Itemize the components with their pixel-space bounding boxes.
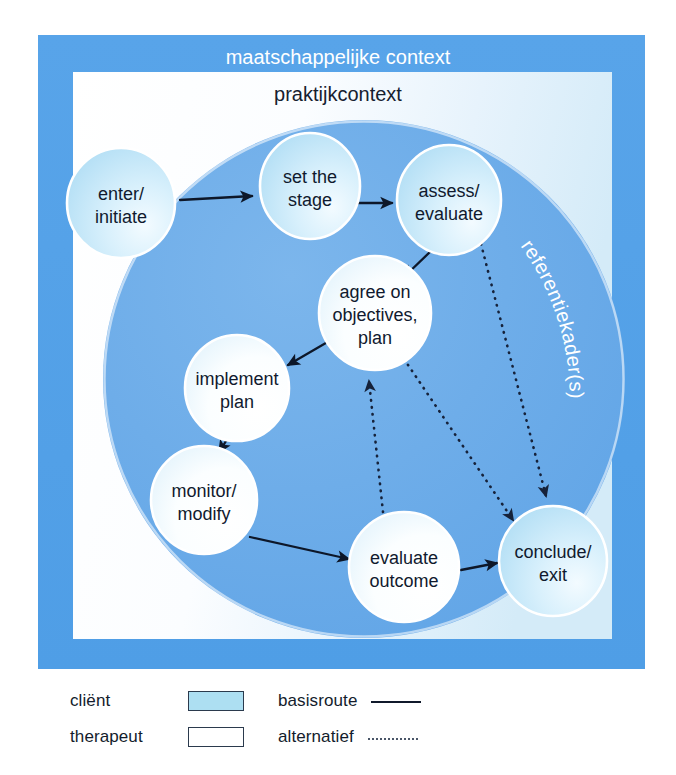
node-assess-evaluate-label-1: assess/ — [418, 181, 479, 201]
legend: cliënt basisroute therapeut alternatief — [70, 686, 590, 756]
legend-label-client: cliënt — [70, 691, 188, 711]
diagram-svg: maatschappelijke context praktijkcontext… — [0, 0, 676, 775]
maatschappelijke-context-label: maatschappelijke context — [226, 46, 451, 68]
legend-line-solid — [371, 701, 421, 703]
node-enter-initiate-label-2: initiate — [95, 207, 147, 227]
node-conclude-exit-label-2: exit — [539, 565, 567, 585]
node-assess-evaluate-label-2: evaluate — [415, 204, 483, 224]
node-monitor-modify-label-1: monitor/ — [171, 481, 236, 501]
node-implement-plan-label-1: implement — [195, 369, 278, 389]
node-set-the-stage-label-1: set the — [283, 167, 337, 187]
legend-swatch-client — [188, 691, 244, 711]
node-implement-plan-label-2: plan — [220, 392, 254, 412]
legend-label-therapist: therapeut — [70, 727, 188, 747]
node-enter-initiate-label-1: enter/ — [98, 184, 144, 204]
node-agree-on-objectives-plan-label-3: plan — [358, 328, 392, 348]
diagram-canvas: maatschappelijke context praktijkcontext… — [0, 0, 676, 775]
legend-row-client: cliënt basisroute — [70, 686, 421, 716]
node-agree-on-objectives-plan[interactable]: agree on objectives, plan — [319, 256, 431, 370]
node-monitor-modify[interactable]: monitor/ modify — [151, 446, 257, 554]
legend-swatch-therapist — [188, 727, 244, 747]
legend-label-basisroute: basisroute — [278, 691, 357, 711]
node-monitor-modify-label-2: modify — [177, 504, 230, 524]
node-enter-initiate[interactable]: enter/ initiate — [67, 148, 175, 258]
legend-row-therapist: therapeut alternatief — [70, 722, 418, 752]
legend-line-dotted — [368, 738, 418, 740]
node-implement-plan[interactable]: implement plan — [185, 335, 289, 441]
node-evaluate-outcome-label-2: outcome — [369, 571, 438, 591]
node-assess-evaluate[interactable]: assess/ evaluate — [397, 145, 501, 255]
node-agree-on-objectives-plan-label-1: agree on — [339, 282, 410, 302]
node-conclude-exit-label-1: conclude/ — [514, 542, 591, 562]
node-agree-on-objectives-plan-label-2: objectives, — [332, 305, 417, 325]
node-evaluate-outcome[interactable]: evaluate outcome — [349, 512, 459, 622]
node-conclude-exit[interactable]: conclude/ exit — [499, 506, 607, 616]
node-set-the-stage-label-2: stage — [288, 190, 332, 210]
legend-label-alternatief: alternatief — [278, 727, 354, 747]
node-set-the-stage[interactable]: set the stage — [260, 133, 360, 239]
praktijkcontext-label: praktijkcontext — [274, 83, 402, 105]
node-evaluate-outcome-label-1: evaluate — [370, 548, 438, 568]
